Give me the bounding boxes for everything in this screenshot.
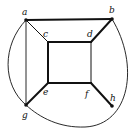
node-g — [24, 103, 28, 107]
node-e — [47, 82, 49, 84]
label-h: h — [110, 93, 116, 103]
edge-a-g-curved — [8, 20, 26, 105]
node-b — [110, 17, 114, 21]
node-h — [110, 104, 114, 108]
label-c: c — [43, 29, 48, 39]
graph-labels: a b c d e f g h — [22, 5, 116, 120]
graph-diagram: a b c d e f g h — [0, 0, 135, 132]
edge-b-d — [91, 19, 112, 42]
node-d — [90, 41, 92, 43]
edge-f-h — [91, 83, 112, 106]
label-d: d — [87, 29, 93, 39]
label-e: e — [43, 87, 48, 97]
label-g: g — [22, 110, 28, 120]
node-a — [24, 18, 28, 22]
label-b: b — [109, 5, 115, 15]
edge-a-b — [26, 19, 112, 20]
node-c — [47, 41, 49, 43]
label-a: a — [22, 7, 27, 17]
node-f — [90, 82, 92, 84]
label-f: f — [84, 89, 90, 99]
